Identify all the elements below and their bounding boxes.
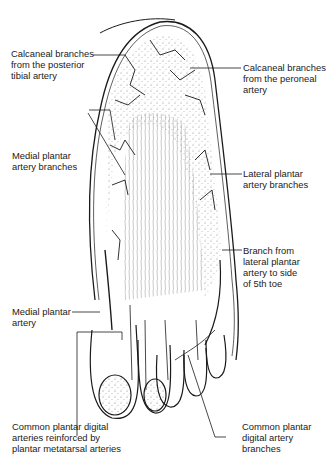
label-lateral-plantar-branches: Lateral plantar artery branches — [243, 168, 308, 190]
label-medial-plantar-branches: Medial plantar artery branches — [12, 150, 77, 172]
foot-artery-diagram: Calcaneal branches from the posterior ti… — [0, 0, 329, 460]
label-calcaneal-posterior-tibial: Calcaneal branches from the posterior ti… — [11, 48, 94, 81]
label-branch-5th-toe: Branch from lateral plantar artery to si… — [243, 245, 300, 289]
label-medial-plantar-artery: Medial plantar artery — [12, 306, 71, 328]
label-common-plantar-digital-branches: Common plantar digital artery branches — [242, 421, 311, 454]
label-calcaneal-peroneal: Calcaneal branches from the peroneal art… — [243, 62, 326, 95]
label-common-plantar-digital-reinforced: Common plantar digital arteries reinforc… — [12, 421, 121, 454]
digital-arteries — [130, 305, 215, 390]
